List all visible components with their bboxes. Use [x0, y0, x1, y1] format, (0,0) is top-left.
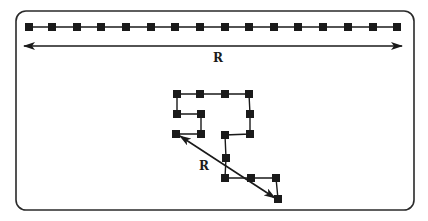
chain-segment-node — [173, 110, 181, 118]
chain-segment-node — [73, 23, 81, 31]
chain-segment-node — [245, 90, 253, 98]
chain-segment-node — [196, 23, 204, 31]
chain-segment-node — [97, 23, 105, 31]
coiled-distance-arrow — [180, 136, 275, 198]
coiled-distance-label: R — [199, 159, 210, 173]
chain-segment-node — [147, 23, 155, 31]
chain-segment-node — [344, 23, 352, 31]
chain-segment-node — [274, 195, 282, 203]
chain-segment-node — [246, 130, 254, 138]
chain-segment-node — [25, 23, 33, 31]
chain-bond — [176, 94, 278, 199]
chain-segment-node — [173, 90, 181, 98]
chain-segment-node — [222, 154, 230, 162]
chain-segment-node — [172, 130, 180, 138]
chain-segment-node — [197, 130, 205, 138]
polymer-end-to-end-diagram: R R — [0, 0, 428, 221]
chain-segment-node — [122, 23, 130, 31]
diagram-frame — [16, 11, 414, 210]
chain-segment-node — [270, 23, 278, 31]
chain-segment-node — [294, 23, 302, 31]
extended-distance-label: R — [213, 51, 224, 65]
coiled-chain — [172, 90, 282, 203]
extended-chain — [25, 23, 401, 31]
chain-segment-node — [197, 110, 205, 118]
chain-segment-node — [272, 174, 280, 182]
chain-segment-node — [369, 23, 377, 31]
chain-segment-node — [245, 23, 253, 31]
chain-segment-node — [171, 23, 179, 31]
chain-segment-node — [246, 110, 254, 118]
chain-segment-node — [319, 23, 327, 31]
chain-segment-node — [221, 174, 229, 182]
chain-segment-node — [196, 90, 204, 98]
chain-segment-node — [48, 23, 56, 31]
chain-segment-node — [393, 23, 401, 31]
chain-segment-node — [221, 90, 229, 98]
chain-segment-node — [221, 131, 229, 139]
chain-segment-node — [221, 23, 229, 31]
